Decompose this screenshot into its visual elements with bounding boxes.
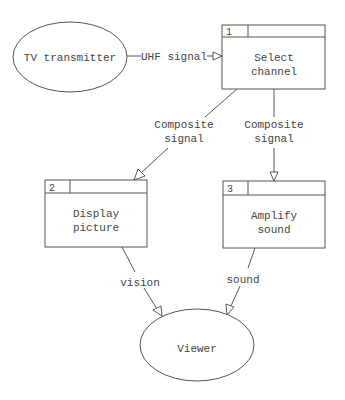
flow-composite-signal-to-amplify: Composite signal — [244, 89, 303, 181]
flow-uhf-signal: UHF signal — [127, 51, 222, 63]
flow-label-line1: Composite — [244, 119, 303, 131]
flow-label: sound — [226, 274, 259, 286]
flow-composite-signal-to-display: Composite signal — [134, 89, 237, 180]
process-label-line1: Display — [73, 208, 120, 220]
data-flow-diagram: UHF signal Composite signal Composite si… — [0, 0, 345, 400]
flow-line — [231, 286, 240, 306]
flow-line — [248, 248, 255, 268]
arrowhead-icon — [270, 172, 278, 181]
process-amplify-sound[interactable]: 3 Amplify sound — [223, 181, 325, 248]
flow-label-line2: signal — [164, 133, 204, 145]
flow-label: UHF signal — [141, 51, 207, 63]
arrowhead-icon — [153, 306, 162, 316]
process-label-line1: Select — [254, 52, 294, 64]
arrowhead-icon — [213, 52, 222, 60]
process-display-picture[interactable]: 2 Display picture — [45, 180, 147, 247]
flow-line — [205, 89, 237, 117]
process-number: 1 — [226, 27, 232, 38]
flow-vision: vision — [120, 247, 162, 316]
external-entity-viewer[interactable]: Viewer — [140, 309, 254, 381]
process-label-line2: picture — [73, 222, 119, 234]
flow-sound: sound — [226, 248, 260, 315]
process-label-line2: sound — [257, 224, 290, 236]
flow-label-line2: signal — [254, 133, 294, 145]
flow-label: vision — [120, 277, 160, 289]
entity-label: TV transmitter — [24, 52, 116, 64]
flow-line — [141, 148, 168, 173]
process-number: 2 — [49, 183, 55, 194]
arrowhead-icon — [226, 304, 234, 315]
process-label-line1: Amplify — [251, 210, 298, 222]
external-entity-tv-transmitter[interactable]: TV transmitter — [13, 22, 127, 92]
flow-label-line1: Composite — [154, 119, 213, 131]
flow-line — [144, 288, 157, 309]
flow-line — [122, 247, 135, 272]
process-number: 3 — [227, 184, 233, 195]
process-select-channel[interactable]: 1 Select channel — [222, 25, 325, 89]
process-label-line2: channel — [251, 66, 297, 78]
entity-label: Viewer — [177, 343, 217, 355]
